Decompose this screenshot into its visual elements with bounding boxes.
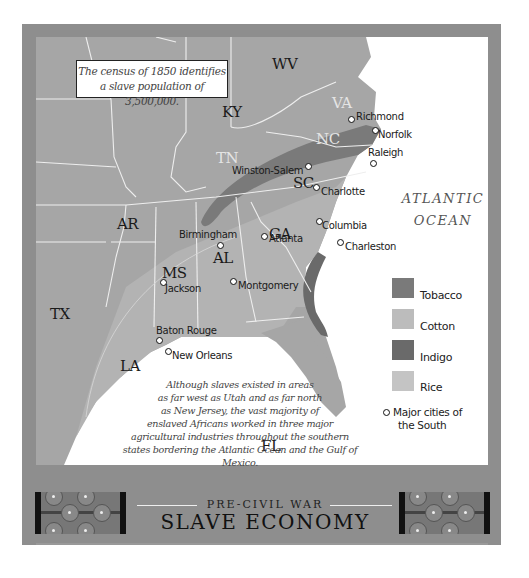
title-rule-right xyxy=(330,505,392,506)
legend-swatch-indigo xyxy=(392,340,414,360)
city-label-norfolk: Norfolk xyxy=(378,129,412,140)
city-label-baton-rouge: Baton Rouge xyxy=(156,325,217,336)
decorative-pattern-left xyxy=(35,492,126,534)
ocean-label: ATLANTIC OCEAN xyxy=(398,188,488,232)
city-label-jackson: Jackson xyxy=(165,283,201,294)
legend-swatch-rice xyxy=(392,371,414,391)
census-callout: The census of 1850 identifies a slave po… xyxy=(76,60,228,98)
blurb-line: states bordering the Atlantic Ocean and … xyxy=(120,443,360,469)
city-marker-baton-rouge xyxy=(156,337,163,344)
city-marker-richmond xyxy=(348,116,355,123)
state-label-tx: TX xyxy=(50,305,70,323)
city-marker-winston-salem xyxy=(305,163,312,170)
city-label-columbia: Columbia xyxy=(322,220,367,231)
city-label-raleigh: Raleigh xyxy=(368,147,403,158)
blurb-line: Although slaves existed in areas xyxy=(120,378,360,391)
city-marker-new-orleans xyxy=(165,348,172,355)
legend-label-tobacco: Tobacco xyxy=(420,289,462,302)
legend-label-rice: Rice xyxy=(420,381,442,394)
decorative-pattern-right xyxy=(399,492,490,534)
footer-strip xyxy=(36,543,488,545)
city-label-birmingham: Birmingham xyxy=(179,229,237,240)
state-label-wv: WV xyxy=(272,55,297,73)
legend-swatch-tobacco xyxy=(392,278,414,298)
census-line-1: The census of 1850 identifies xyxy=(77,64,227,79)
state-label-al: AL xyxy=(213,249,233,267)
title-rule-left xyxy=(137,505,197,506)
city-marker-raleigh xyxy=(370,160,377,167)
city-marker-charleston xyxy=(337,239,344,246)
city-label-new-orleans: New Orleans xyxy=(172,350,232,361)
page-title: SLAVE ECONOMY xyxy=(160,510,370,534)
city-marker-atlanta xyxy=(261,233,268,240)
state-label-nc: NC xyxy=(316,130,340,148)
blurb-line: enslaved Africans worked in three major xyxy=(120,417,360,430)
state-label-va: VA xyxy=(332,94,352,112)
legend-swatch-cotton xyxy=(392,309,414,329)
ocean-label-line-1: ATLANTIC xyxy=(398,188,488,210)
ocean-label-line-2: OCEAN xyxy=(398,210,488,232)
legend-label-cotton: Cotton xyxy=(420,320,455,333)
legend-city-marker-icon xyxy=(383,409,390,416)
city-label-richmond: Richmond xyxy=(356,111,404,122)
city-label-charlotte: Charlotte xyxy=(321,186,365,197)
city-marker-charlotte xyxy=(313,184,320,191)
legend-cities-line-2: the South xyxy=(398,419,446,431)
blurb-line: as far west as Utah and as far north xyxy=(120,391,360,404)
census-line-2: a slave population of 3,500,000. xyxy=(77,79,227,109)
blurb-line: agricultural industries throughout the s… xyxy=(120,430,360,443)
legend-label-indigo: Indigo xyxy=(420,351,452,364)
city-label-winston-salem: Winston-Salem xyxy=(232,165,303,176)
city-label-montgomery: Montgomery xyxy=(238,280,298,291)
state-label-ar: AR xyxy=(117,215,138,233)
description-blurb: Although slaves existed in areas as far … xyxy=(120,378,360,469)
city-marker-montgomery xyxy=(230,278,237,285)
city-label-atlanta: Atlanta xyxy=(269,233,303,244)
city-marker-birmingham xyxy=(217,242,224,249)
state-label-sc: SC xyxy=(293,174,314,192)
state-label-la: LA xyxy=(120,357,140,375)
legend-cities-line-1: Major cities of xyxy=(393,406,462,418)
city-label-charleston: Charleston xyxy=(345,241,396,252)
blurb-line: as New Jersey, the vast majority of xyxy=(120,404,360,417)
